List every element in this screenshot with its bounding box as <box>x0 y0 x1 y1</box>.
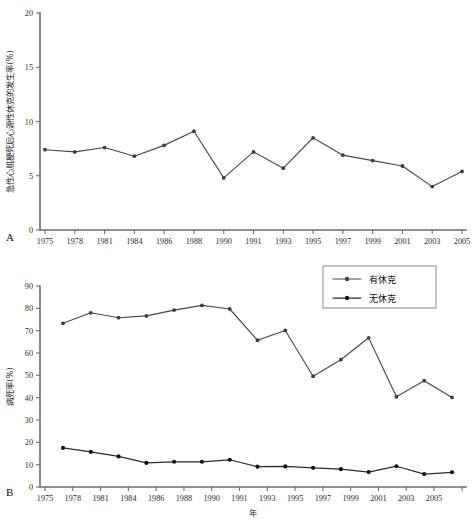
data-point-marker <box>256 338 260 342</box>
data-point-marker <box>367 336 371 340</box>
data-point-marker <box>103 146 107 150</box>
data-point-marker <box>283 329 287 333</box>
data-point-marker <box>339 358 343 362</box>
x-tick-label: 1975 <box>37 237 53 246</box>
data-point-marker <box>339 467 343 471</box>
x-axis-title: 年 <box>249 508 257 518</box>
figure-container: A 05101520197519781981198419861988199019… <box>0 0 472 520</box>
data-point-marker <box>311 374 315 378</box>
y-tick-label: 0 <box>29 483 33 492</box>
x-tick-label: 1997 <box>315 494 331 503</box>
x-tick-label: 1990 <box>216 237 232 246</box>
data-point-marker <box>255 465 259 469</box>
data-point-marker <box>222 176 226 180</box>
x-tick-label: 1999 <box>364 237 380 246</box>
chart-b-axes <box>40 286 466 487</box>
y-tick-label: 70 <box>25 327 33 336</box>
panel-b-label: B <box>6 486 14 498</box>
data-point-marker <box>61 446 65 450</box>
data-point-marker <box>394 464 398 468</box>
x-tick-label: 1999 <box>342 494 358 503</box>
y-tick-label: 50 <box>25 371 33 380</box>
data-point-marker <box>228 307 232 311</box>
x-tick-label: 1988 <box>186 237 202 246</box>
x-tick-label: 2003 <box>424 237 440 246</box>
data-point-marker <box>422 379 426 383</box>
y-tick-label: 15 <box>25 63 33 72</box>
series-line-shock <box>63 305 452 397</box>
legend-label: 无休克 <box>369 293 396 304</box>
y-tick-label: 5 <box>29 172 33 181</box>
data-point-marker <box>89 311 93 315</box>
data-point-marker <box>162 143 166 147</box>
x-tick-label: 1986 <box>156 237 172 246</box>
legend-marker <box>345 277 349 281</box>
y-tick-label: 20 <box>25 9 33 18</box>
chart-a-axes <box>40 13 466 230</box>
x-tick-label: 2001 <box>394 237 410 246</box>
data-point-marker <box>172 308 176 312</box>
data-point-marker <box>401 164 405 168</box>
x-tick-label: 2001 <box>370 494 386 503</box>
data-point-marker <box>117 316 121 320</box>
legend-marker <box>345 296 349 300</box>
x-tick-label: 1991 <box>231 494 247 503</box>
x-tick-label: 2003 <box>398 494 414 503</box>
x-tick-label: 1988 <box>176 494 192 503</box>
data-point-marker <box>371 159 375 163</box>
y-tick-label: 10 <box>25 461 33 470</box>
x-tick-label: 2005 <box>426 494 442 503</box>
y-tick-label: 80 <box>25 304 33 313</box>
x-tick-label: 1993 <box>259 494 275 503</box>
data-point-marker <box>200 460 204 464</box>
chart-panel-a: A 05101520197519781981198419861988199019… <box>0 0 472 258</box>
data-point-marker <box>460 170 464 174</box>
x-tick-label: 1995 <box>287 494 303 503</box>
x-tick-label: 1997 <box>335 237 351 246</box>
data-point-marker <box>73 150 77 154</box>
data-point-marker <box>422 472 426 476</box>
x-tick-label: 1984 <box>120 494 136 503</box>
data-point-marker <box>430 185 434 189</box>
data-point-marker <box>450 470 454 474</box>
x-tick-label: 2005 <box>454 237 470 246</box>
panel-a-label: A <box>6 231 14 243</box>
data-point-marker <box>341 153 345 157</box>
data-point-marker <box>311 466 315 470</box>
x-tick-label: 1990 <box>204 494 220 503</box>
data-point-marker <box>43 148 47 152</box>
x-tick-label: 1981 <box>96 237 112 246</box>
data-point-marker <box>228 458 232 462</box>
y-tick-label: 20 <box>25 438 33 447</box>
data-point-marker <box>89 450 93 454</box>
chart-legend: 有休克无休克 <box>323 266 436 308</box>
y-tick-label: 10 <box>25 118 33 127</box>
x-tick-label: 1978 <box>67 237 83 246</box>
data-point-marker <box>252 150 256 154</box>
data-point-marker <box>172 460 176 464</box>
y-tick-label: 60 <box>25 349 33 358</box>
data-point-marker <box>144 461 148 465</box>
y-tick-label: 30 <box>25 416 33 425</box>
x-tick-label: 1975 <box>37 494 53 503</box>
series-line-noshock <box>63 448 452 474</box>
data-point-marker <box>281 166 285 170</box>
data-point-marker <box>311 136 315 140</box>
y-tick-label: 0 <box>29 226 33 235</box>
y-axis-title: 病死率(%) <box>5 367 15 406</box>
data-point-marker <box>283 464 287 468</box>
x-tick-label: 1995 <box>305 237 321 246</box>
data-point-marker <box>395 395 399 399</box>
y-axis-title: 急性心肌梗死后心源性休克的发生率(%) <box>5 50 15 193</box>
x-tick-label: 1981 <box>92 494 108 503</box>
chart-a-svg: 0510152019751978198119841986198819901991… <box>0 0 472 258</box>
legend-label: 有休克 <box>369 274 396 285</box>
data-point-marker <box>132 154 136 158</box>
data-point-marker <box>192 129 196 133</box>
x-tick-label: 1986 <box>148 494 164 503</box>
chart-panel-b: B 01020304050607080901975197819811984198… <box>0 258 472 520</box>
x-tick-label: 1993 <box>275 237 291 246</box>
data-point-marker <box>450 396 454 400</box>
series-line-incidence <box>45 131 462 186</box>
x-tick-label: 1991 <box>245 237 261 246</box>
